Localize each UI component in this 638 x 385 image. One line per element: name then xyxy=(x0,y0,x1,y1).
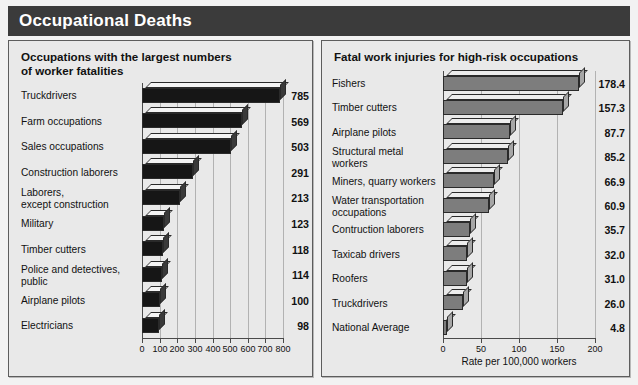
category-label: Laborers, except construction xyxy=(21,187,139,210)
bar xyxy=(443,118,510,139)
x-axis-tick-label: 150 xyxy=(541,344,573,354)
x-axis-caption: Rate per 100,000 workers xyxy=(383,356,638,367)
bar-side-face xyxy=(467,237,473,258)
category-label: Miners, quarry workers xyxy=(332,176,440,188)
bar-front-face xyxy=(443,76,579,91)
bar xyxy=(443,192,489,213)
value-label: 100 xyxy=(285,295,309,307)
bar xyxy=(443,240,467,261)
category-label: Military xyxy=(21,218,139,230)
x-axis-tick xyxy=(283,339,284,343)
bar xyxy=(443,143,508,164)
category-label: Truckdrivers xyxy=(21,90,139,102)
bar-front-face xyxy=(142,241,163,256)
value-label: 291 xyxy=(285,167,309,179)
value-label: 98 xyxy=(285,320,309,332)
x-axis-tick xyxy=(160,339,161,343)
x-axis-tick xyxy=(213,339,214,343)
bar-side-face xyxy=(193,155,199,176)
bar xyxy=(142,235,163,256)
bar-front-face xyxy=(443,271,467,286)
x-axis-tick xyxy=(265,339,266,343)
chart-right: 050100150200Rate per 100,000 workersFish… xyxy=(322,41,629,376)
bar xyxy=(142,82,280,103)
panel-left-fatality-counts: Occupations with the largest numbers of … xyxy=(8,40,313,377)
value-label: 60.9 xyxy=(597,200,625,212)
category-label: Airplane pilots xyxy=(332,127,440,139)
bar-front-face xyxy=(443,222,470,237)
category-label: Electricians xyxy=(21,320,139,332)
bar xyxy=(443,167,494,188)
x-axis-tick xyxy=(481,339,482,343)
value-label: 785 xyxy=(285,90,309,102)
category-label: Contruction laborers xyxy=(332,224,440,236)
value-label: 31.0 xyxy=(597,273,625,285)
x-axis-tick-label: 800 xyxy=(267,344,299,354)
bar-front-face xyxy=(142,139,231,154)
value-label: 87.7 xyxy=(597,127,625,139)
category-label: Police and detectives, public xyxy=(21,264,139,287)
bar-side-face xyxy=(159,309,165,330)
gridline xyxy=(265,83,266,338)
category-label: Timber cutters xyxy=(332,102,440,114)
bar-front-face xyxy=(142,216,164,231)
bar-front-face xyxy=(142,267,162,282)
page-title: Occupational Deaths xyxy=(8,11,192,31)
x-axis-tick xyxy=(519,339,520,343)
x-axis-tick-label: 0 xyxy=(427,344,459,354)
value-label: 26.0 xyxy=(597,298,625,310)
bar xyxy=(142,158,193,179)
x-axis-tick xyxy=(230,339,231,343)
bar-front-face xyxy=(443,124,510,139)
category-label: Fishers xyxy=(332,78,440,90)
value-label: 569 xyxy=(285,116,309,128)
category-label: Airplane pilots xyxy=(21,295,139,307)
value-label: 178.4 xyxy=(597,78,625,90)
bar xyxy=(142,286,160,307)
bar-front-face xyxy=(142,190,180,205)
bar-front-face xyxy=(443,198,489,213)
bar xyxy=(443,94,563,115)
category-label: Construction laborers xyxy=(21,167,139,179)
x-axis-tick xyxy=(557,339,558,343)
gridline xyxy=(283,83,284,338)
bar-front-face xyxy=(443,149,508,164)
x-axis-tick-label: 50 xyxy=(465,344,497,354)
category-label: Water transportation occupations xyxy=(332,195,440,218)
value-label: 118 xyxy=(285,244,309,256)
category-label: Taxicab drivers xyxy=(332,249,440,261)
bar xyxy=(142,261,162,282)
x-axis-tick xyxy=(142,339,143,343)
x-axis-tick xyxy=(177,339,178,343)
value-label: 114 xyxy=(285,269,309,281)
bar-front-face xyxy=(142,318,159,333)
bar-front-face xyxy=(443,173,494,188)
bar-front-face xyxy=(142,88,280,103)
bar xyxy=(443,314,447,335)
value-label: 66.9 xyxy=(597,176,625,188)
category-label: Farm occupations xyxy=(21,116,139,128)
category-label: Timber cutters xyxy=(21,244,139,256)
bar-front-face xyxy=(443,320,447,335)
bar xyxy=(443,70,579,91)
bar-front-face xyxy=(443,295,463,310)
category-label: Truckdrivers xyxy=(332,298,440,310)
x-axis-tick xyxy=(195,339,196,343)
x-axis-tick xyxy=(443,339,444,343)
gridline xyxy=(595,71,596,338)
bar xyxy=(142,184,180,205)
bar-front-face xyxy=(443,246,467,261)
figure-title-bar: Occupational Deaths xyxy=(8,6,630,36)
bar-side-face xyxy=(470,213,476,234)
bar xyxy=(142,133,231,154)
value-label: 35.7 xyxy=(597,224,625,236)
bar xyxy=(443,289,463,310)
chart-left: 0100200300400500600700800Truckdrivers785… xyxy=(9,41,312,376)
bar-front-face xyxy=(142,164,193,179)
x-axis-tick-label: 200 xyxy=(579,344,611,354)
value-label: 85.2 xyxy=(597,151,625,163)
bar-front-face xyxy=(443,100,563,115)
occupational-deaths-figure: Occupational Deaths Occupations with the… xyxy=(0,0,638,385)
x-axis-tick-label: 100 xyxy=(503,344,535,354)
category-label: National Average xyxy=(332,322,440,334)
